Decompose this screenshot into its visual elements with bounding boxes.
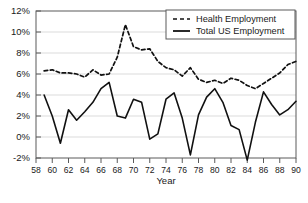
x-axis-tick-label: 90	[291, 165, 301, 175]
employment-growth-line-chart: 12%10%8%6%4%2%0%-2% 58606264666870727476…	[0, 0, 308, 203]
x-axis-tick-label: 82	[226, 165, 236, 175]
y-axis-tick-label: 2%	[16, 110, 30, 121]
x-axis-tick-label: 72	[145, 165, 155, 175]
x-axis-tick-label: 62	[64, 165, 74, 175]
x-axis-ticks	[36, 158, 296, 163]
chart-figure: 12%10%8%6%4%2%0%-2% 58606264666870727476…	[0, 0, 308, 203]
x-axis-tick-label: 84	[242, 165, 252, 175]
y-axis-tick-label: 0%	[16, 131, 30, 142]
legend-label-total-us-employment: Total US Employment	[196, 26, 285, 36]
x-axis-tick-label: 88	[275, 165, 285, 175]
x-axis-tick-label: 58	[31, 165, 41, 175]
y-axis-tick-label: 4%	[16, 89, 30, 100]
x-axis-tick-label: 78	[194, 165, 204, 175]
x-axis-tick-label: 86	[259, 165, 269, 175]
x-axis-tick-label: 60	[47, 165, 57, 175]
y-axis-tick-labels: 12%10%8%6%4%2%0%-2%	[11, 5, 31, 163]
y-axis-tick-label: 8%	[16, 47, 30, 58]
x-axis-tick-label: 70	[129, 165, 139, 175]
x-axis-title: Year	[156, 175, 175, 186]
x-axis-tick-label: 64	[80, 165, 90, 175]
x-axis-tick-label: 66	[96, 165, 106, 175]
x-axis-tick-label: 80	[210, 165, 220, 175]
y-axis-tick-label: 12%	[11, 5, 31, 16]
legend-label-health-employment: Health Employment	[196, 14, 277, 24]
x-axis-tick-label: 68	[112, 165, 122, 175]
y-axis-tick-label: 6%	[16, 68, 30, 79]
chart-legend: Health Employment Total US Employment	[166, 10, 295, 39]
x-axis-tick-label: 74	[161, 165, 171, 175]
x-axis-tick-labels: 5860626466687072747678808284868890	[31, 165, 301, 175]
x-axis-tick-label: 76	[177, 165, 187, 175]
y-axis-tick-label: -2%	[13, 152, 30, 163]
y-axis-tick-label: 10%	[11, 26, 31, 37]
